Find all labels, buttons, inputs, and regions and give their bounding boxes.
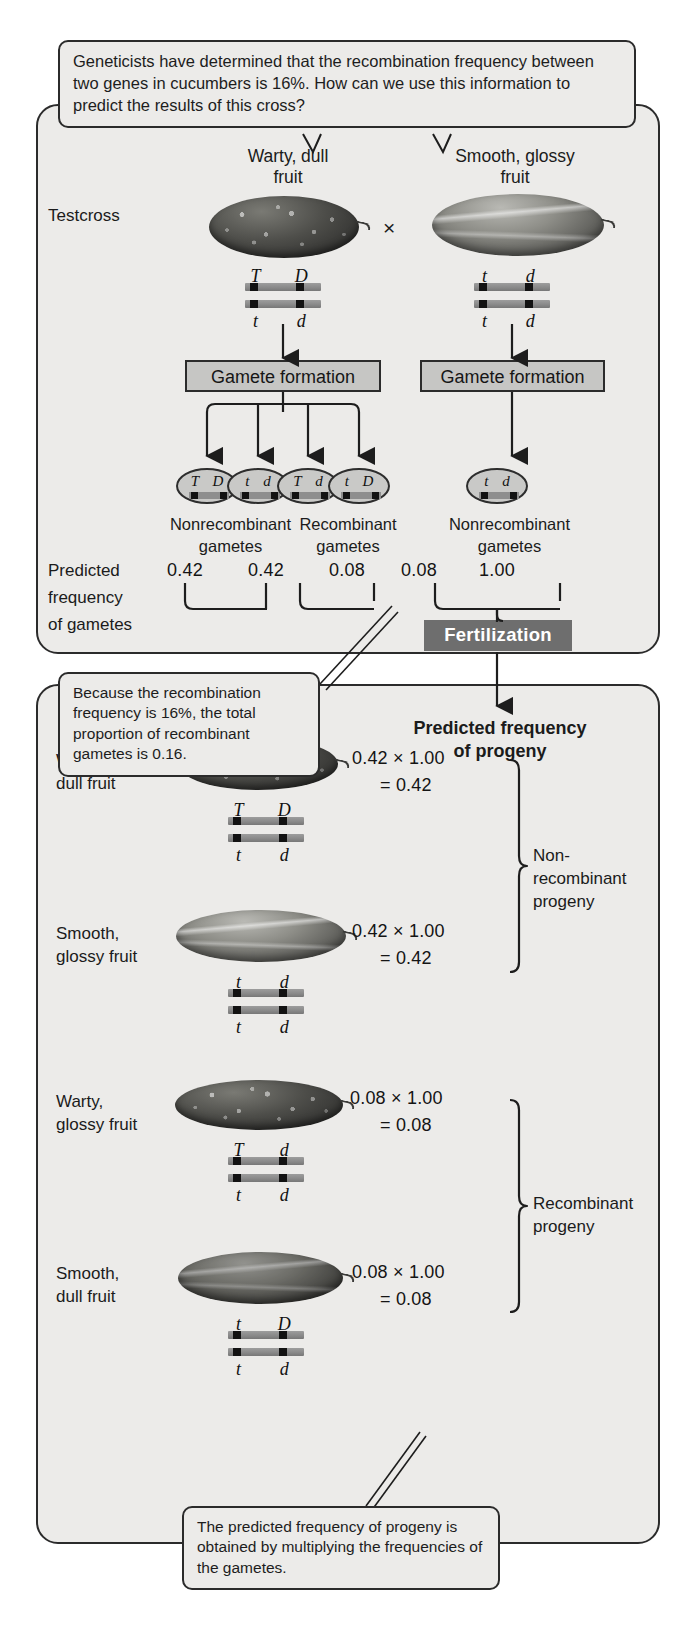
progeny-row-1-phenotype-line2: dull fruit [56, 774, 116, 795]
progeny-row-2-calc: 0.42 × 1.00 [352, 921, 502, 942]
progeny-row-3-phenotype-line2: glossy fruit [56, 1115, 137, 1136]
progeny-row-3-phenotype-line1: Warty, [56, 1092, 103, 1113]
gamete-alleles: t d [468, 473, 526, 490]
gamete-oval-4: t D [328, 468, 390, 504]
parent-1-phenotype-line2: fruit [203, 167, 373, 188]
gamete-frequency-1: 0.42 [155, 560, 215, 581]
predicted-frequency-label-line1: Predicted [48, 561, 120, 582]
progeny-group-1-line1: Non- [533, 846, 570, 867]
progeny-group-1-line3: progeny [533, 892, 594, 913]
gamete-frequency-2: 0.42 [236, 560, 296, 581]
gamete-frequency-3: 0.08 [317, 560, 377, 581]
gamete-frequency-4: 0.08 [389, 560, 449, 581]
gamete-formation-box-left: Gamete formation [185, 360, 381, 392]
progeny-row-1-calc: 0.42 × 1.00 [352, 748, 502, 769]
allele: t [482, 311, 487, 332]
cross-symbol: × [383, 216, 395, 240]
progeny-row-3-calc: 0.08 × 1.00 [350, 1088, 505, 1109]
progeny-row-4-chromosomes: t D t d [228, 1314, 304, 1376]
progeny-row-3-cucumber-image [175, 1080, 343, 1130]
progeny-panel [36, 684, 660, 1544]
parent-1-chromosomes: T D t d [245, 266, 321, 328]
progeny-row-2-chromosomes: t d t d [228, 972, 304, 1034]
progeny-row-3-result: = 0.08 [380, 1115, 500, 1136]
fertilization-box: Fertilization [424, 620, 572, 651]
allele: d [280, 1359, 289, 1380]
progeny-row-4-calc: 0.08 × 1.00 [352, 1262, 502, 1283]
progeny-row-4-phenotype-line2: dull fruit [56, 1287, 116, 1308]
predicted-frequency-label-line3: of gametes [48, 615, 132, 636]
gamete-alleles: t D [330, 473, 388, 490]
progeny-row-2-cucumber-image [176, 910, 346, 962]
callout-recombination-note: Because the recombination frequency is 1… [58, 672, 320, 777]
figure-root: Geneticists have determined that the rec… [0, 0, 696, 1649]
progeny-header-line1: Predicted frequency [350, 718, 650, 740]
allele: d [280, 1017, 289, 1038]
warty-dull-cucumber-image [209, 196, 359, 258]
progeny-row-3-chromosomes: T d t d [228, 1140, 304, 1202]
progeny-row-2-phenotype-line2: glossy fruit [56, 947, 137, 968]
parent-1-phenotype-line1: Warty, dull [203, 146, 373, 167]
smooth-glossy-cucumber-image [432, 194, 604, 256]
progeny-row-4-phenotype-line1: Smooth, [56, 1264, 119, 1285]
testcross-label: Testcross [48, 206, 158, 227]
callout-multiplication-note: The predicted frequency of progeny is ob… [182, 1506, 500, 1590]
gamete-group-label-2-line1: Recombinant [273, 514, 423, 534]
predicted-frequency-label-line2: frequency [48, 588, 123, 609]
allele: t [236, 1359, 241, 1380]
progeny-row-4-cucumber-image [178, 1252, 343, 1304]
gamete-frequency-5: 1.00 [467, 560, 527, 581]
allele: t [236, 1185, 241, 1206]
progeny-row-1-result: = 0.42 [380, 775, 500, 796]
allele: t [236, 845, 241, 866]
parent-2-chromosomes: t d t d [474, 266, 550, 328]
progeny-group-2-line1: Recombinant [533, 1194, 633, 1215]
allele: t [253, 311, 258, 332]
gamete-oval-5: t d [466, 468, 528, 504]
gamete-group-label-2-line2: gametes [273, 536, 423, 556]
progeny-row-2-result: = 0.42 [380, 948, 500, 969]
callout-recombination-question: Geneticists have determined that the rec… [58, 40, 636, 128]
progeny-row-1-chromosomes: T D t d [228, 800, 304, 862]
progeny-group-2-line2: progeny [533, 1217, 594, 1238]
gamete-formation-box-right: Gamete formation [420, 360, 605, 392]
allele: t [236, 1017, 241, 1038]
allele: d [297, 311, 306, 332]
allele: d [526, 311, 535, 332]
gamete-group-label-3-line1: Nonrecombinant [412, 514, 607, 534]
progeny-row-4-result: = 0.08 [380, 1289, 500, 1310]
parent-2-phenotype-line1: Smooth, glossy [420, 146, 610, 167]
progeny-row-2-phenotype-line1: Smooth, [56, 924, 119, 945]
parent-2-phenotype-line2: fruit [420, 167, 610, 188]
progeny-group-1-line2: recombinant [533, 869, 627, 890]
allele: d [280, 1185, 289, 1206]
gamete-group-label-3-line2: gametes [412, 536, 607, 556]
allele: d [280, 845, 289, 866]
